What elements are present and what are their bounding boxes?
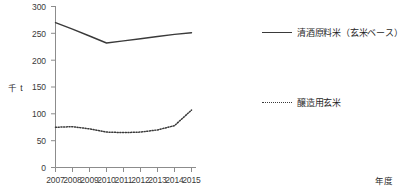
- y-axis-ticks: [51, 7, 56, 168]
- y-tick-label-100: 100: [16, 109, 46, 119]
- series-line-jozoyo-genmai: [56, 110, 192, 133]
- y-tick-label-250: 250: [16, 29, 46, 39]
- x-axis-ticks: [56, 168, 192, 173]
- y-tick-label-200: 200: [16, 56, 46, 66]
- legend-swatch-dotted-line-icon: [262, 98, 292, 108]
- legend-swatch-solid-line-icon: [262, 28, 292, 38]
- x-tick-label-2015: 2015: [179, 175, 205, 185]
- legend-item-seishu-genryomai[interactable]: 清酒原料米（玄米ベース）: [262, 26, 403, 39]
- legend-label-jozoyo-genmai: 醸造用玄米: [297, 96, 341, 109]
- y-tick-label-0: 0: [16, 163, 46, 173]
- legend-label-seishu-genryomai: 清酒原料米（玄米ベース）: [297, 26, 403, 39]
- y-axis-title: 千 t: [8, 81, 23, 93]
- series-line-seishu-genryomai: [56, 23, 192, 43]
- y-tick-label-300: 300: [16, 2, 46, 12]
- line-chart: 300 250 200 150 100 50 0 2007 2008 2009 …: [0, 0, 406, 190]
- x-axis-title: 年度: [375, 174, 393, 186]
- legend-item-jozoyo-genmai[interactable]: 醸造用玄米: [262, 96, 341, 109]
- y-tick-label-50: 50: [16, 136, 46, 146]
